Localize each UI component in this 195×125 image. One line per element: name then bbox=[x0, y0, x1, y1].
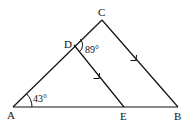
label-point-e: E bbox=[120, 110, 127, 122]
label-point-d: D bbox=[64, 38, 72, 50]
label-point-b: B bbox=[174, 110, 181, 122]
angle-label-a: 43° bbox=[33, 93, 47, 104]
angle-arc-a bbox=[27, 94, 32, 107]
label-point-c: C bbox=[98, 6, 105, 18]
angle-label-d: 89° bbox=[85, 44, 99, 55]
label-point-a: A bbox=[7, 109, 15, 121]
triangle-diagram: C D A E B 43° 89° bbox=[0, 0, 195, 125]
diagram-canvas: C D A E B 43° 89° bbox=[0, 0, 195, 125]
